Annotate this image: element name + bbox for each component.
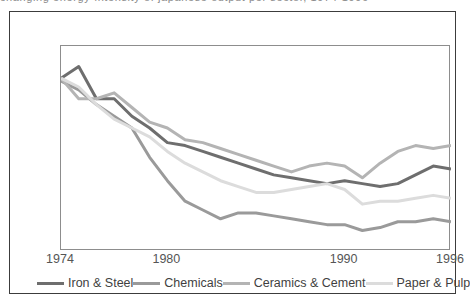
legend-swatch-paper-pulp <box>366 282 393 285</box>
legend-item-ceramics-cement[interactable]: Ceramics & Cement <box>223 276 366 290</box>
legend-swatch-iron-steel <box>37 282 64 285</box>
series-line-ceramics-cement <box>61 78 451 178</box>
x-tick-label-1996: 1996 <box>436 253 464 266</box>
plot-area <box>60 45 450 250</box>
x-tick-label-1980: 1980 <box>152 253 180 266</box>
legend-item-paper-pulp[interactable]: Paper & Pulp <box>366 276 470 290</box>
x-tick-label-1990: 1990 <box>330 253 358 266</box>
line-series-group <box>61 46 451 251</box>
legend-label-chemicals: Chemicals <box>164 276 222 290</box>
legend-label-paper-pulp: Paper & Pulp <box>397 276 470 290</box>
legend-label-ceramics-cement: Ceramics & Cement <box>254 276 366 290</box>
legend-item-chemicals[interactable]: Chemicals <box>133 276 222 290</box>
clipped-caption-above-figure: changing energy-intensity of japanese ou… <box>0 0 466 9</box>
legend-swatch-chemicals <box>133 282 160 285</box>
x-tick-label-1974: 1974 <box>46 253 74 266</box>
figure-border: 405060708090100110 1974198019901996 Iron… <box>9 11 456 294</box>
series-line-iron-steel <box>61 67 451 187</box>
clipped-caption-text: changing energy-intensity of japanese ou… <box>0 0 466 2</box>
legend-swatch-ceramics-cement <box>223 282 250 285</box>
legend-item-iron-steel[interactable]: Iron & Steel <box>37 276 133 290</box>
legend-label-iron-steel: Iron & Steel <box>68 276 133 290</box>
chart-legend: Iron & Steel Chemicals Ceramics & Cement… <box>37 274 447 292</box>
